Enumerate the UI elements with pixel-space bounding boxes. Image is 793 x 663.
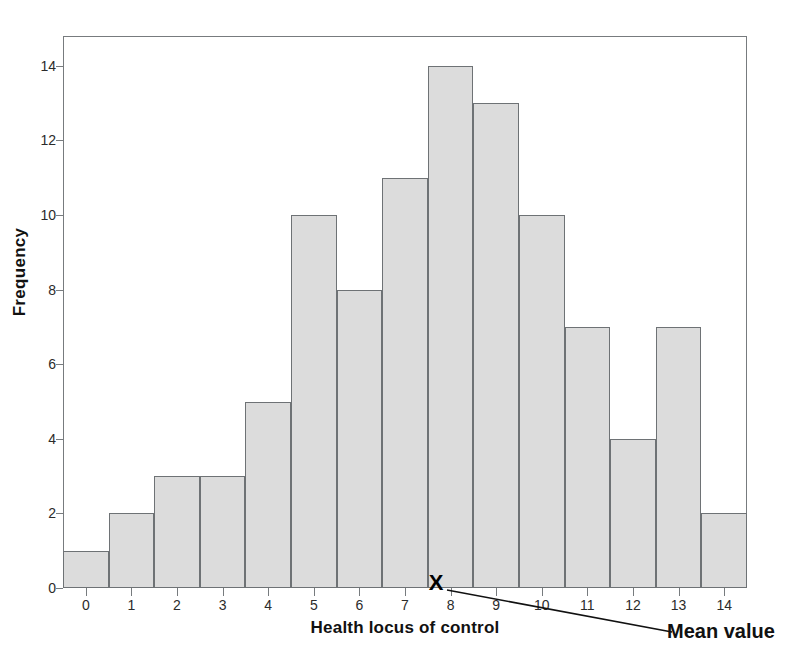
histogram-bar xyxy=(610,439,656,588)
y-axis-tick-label: 6 xyxy=(48,356,56,372)
y-axis-tick-label: 10 xyxy=(40,207,56,223)
y-axis-tick-label: 8 xyxy=(48,282,56,298)
histogram-bar xyxy=(565,327,611,588)
x-axis-tick-mark xyxy=(359,588,360,596)
histogram-bar xyxy=(337,290,383,588)
x-axis-tick-label: 2 xyxy=(173,597,181,613)
x-axis-tick-label: 12 xyxy=(625,597,641,613)
x-axis-tick-mark xyxy=(268,588,269,596)
y-axis-tick-mark xyxy=(56,439,63,440)
histogram-bar xyxy=(63,551,109,588)
x-axis-tick-mark xyxy=(679,588,680,596)
histogram-bar xyxy=(382,178,428,588)
x-axis-title: Health locus of control xyxy=(63,618,747,638)
y-axis-tick-mark xyxy=(56,140,63,141)
histogram-bar xyxy=(656,327,702,588)
x-axis-tick-label: 7 xyxy=(401,597,409,613)
y-axis-tick-label: 0 xyxy=(48,580,56,596)
x-axis-tick-mark xyxy=(405,588,406,596)
y-axis-tick-mark xyxy=(56,290,63,291)
histogram-bar xyxy=(519,215,565,588)
histogram-bar xyxy=(109,513,155,588)
histogram-bar xyxy=(701,513,747,588)
x-axis-tick-label: 10 xyxy=(534,597,550,613)
x-axis-tick-mark xyxy=(451,588,452,596)
histogram-bar xyxy=(245,402,291,588)
x-axis-tick-label: 6 xyxy=(355,597,363,613)
x-axis-tick-mark xyxy=(131,588,132,596)
x-axis-tick-label: 4 xyxy=(264,597,272,613)
y-axis-tick-label: 2 xyxy=(48,505,56,521)
x-axis-tick-label: 3 xyxy=(219,597,227,613)
x-axis-tick-label: 0 xyxy=(82,597,90,613)
y-axis-tick-label: 4 xyxy=(48,431,56,447)
y-axis-tick-label: 14 xyxy=(40,58,56,74)
x-axis-tick-label: 11 xyxy=(580,597,595,613)
y-axis-tick-mark xyxy=(56,588,63,589)
x-axis-tick-label: 14 xyxy=(716,597,732,613)
y-axis-tick-mark xyxy=(56,215,63,216)
x-axis-tick-mark xyxy=(542,588,543,596)
histogram-bar xyxy=(473,103,519,588)
mean-value-label: Mean value xyxy=(667,620,775,643)
histogram-bar xyxy=(428,66,474,588)
histogram-bar xyxy=(154,476,200,588)
x-axis-tick-mark xyxy=(633,588,634,596)
x-axis-tick-label: 8 xyxy=(447,597,455,613)
x-axis-tick-mark xyxy=(587,588,588,596)
y-axis-tick-label: 12 xyxy=(40,132,56,148)
x-axis-tick-label: 13 xyxy=(671,597,687,613)
histogram-bar xyxy=(291,215,337,588)
x-axis-tick-label: 9 xyxy=(492,597,500,613)
histogram-figure: 02468101214 Frequency 012345678910111213… xyxy=(0,0,793,663)
x-axis-tick-label: 5 xyxy=(310,597,318,613)
y-axis-tick-mark xyxy=(56,513,63,514)
x-axis-tick-mark xyxy=(223,588,224,596)
x-axis-tick-mark xyxy=(177,588,178,596)
x-axis-tick-mark xyxy=(314,588,315,596)
histogram-bars xyxy=(63,36,747,588)
x-axis-tick-mark xyxy=(724,588,725,596)
x-axis-tick-mark xyxy=(86,588,87,596)
histogram-bar xyxy=(200,476,246,588)
y-axis-tick-mark xyxy=(56,66,63,67)
x-axis-tick-label: 1 xyxy=(127,597,135,613)
y-axis-title: Frequency xyxy=(10,212,30,332)
y-axis-tick-mark xyxy=(56,364,63,365)
x-axis-tick-mark xyxy=(496,588,497,596)
mean-value-marker: X xyxy=(429,572,444,594)
